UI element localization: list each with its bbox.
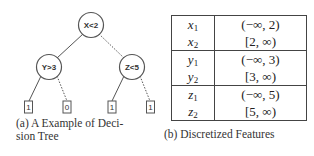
caption-b: (b) Discretized Features — [164, 128, 314, 141]
edge-root-right — [99, 34, 124, 58]
discretized-features-table: x1 (−∞, 2) x2 [2, ∞) y1 (−∞, 3) y2 [3, ∞… — [171, 15, 307, 121]
table-row: x1 (−∞, 2) — [172, 16, 307, 34]
leaf-label: 1 — [110, 103, 115, 112]
interval-cell: [2, ∞) — [215, 33, 307, 51]
interval-cell: [3, ∞) — [215, 68, 307, 86]
tree-node-root: X<2 — [79, 13, 104, 38]
caption-a-line2: sion Tree — [16, 130, 156, 143]
variable-cell: z1 — [172, 86, 215, 104]
table-row: z1 (−∞, 5) — [172, 86, 307, 104]
variable-cell: x1 — [172, 16, 215, 34]
edge-root-left — [57, 34, 83, 58]
interval-cell: [5, ∞) — [215, 103, 307, 121]
variable-cell: x2 — [172, 33, 215, 51]
interval-cell: (−∞, 5) — [215, 86, 307, 104]
leaf-label: 1 — [26, 103, 31, 112]
discretized-features-panel: x1 (−∞, 2) x2 [2, ∞) y1 (−∞, 3) y2 [3, ∞… — [160, 0, 314, 156]
tree-leaf-3: 1 — [108, 101, 116, 113]
decision-tree-panel: X<2 Y>3 Z<5 1 0 1 1 (a) A Example of Dec — [0, 0, 160, 156]
table-row: x2 [2, ∞) — [172, 33, 307, 51]
edge-left-leaf1 — [29, 76, 41, 101]
table-row: y1 (−∞, 3) — [172, 51, 307, 69]
caption-a-line1: (a) A Example of Deci- — [16, 117, 156, 130]
interval-cell: (−∞, 3) — [215, 51, 307, 69]
variable-cell: y1 — [172, 51, 215, 69]
variable-cell: y2 — [172, 68, 215, 86]
tree-leaf-1: 1 — [25, 101, 33, 113]
interval-cell: (−∞, 2) — [215, 16, 307, 34]
leaf-label: 0 — [65, 103, 70, 112]
node-label-root: X<2 — [84, 21, 99, 30]
tree-leaf-2: 0 — [63, 101, 71, 113]
node-label-left: Y>3 — [42, 63, 57, 72]
tree-leaf-4: 1 — [147, 101, 155, 113]
table-row: z2 [5, ∞) — [172, 103, 307, 121]
caption-a: (a) A Example of Deci- sion Tree — [16, 117, 156, 143]
tree-node-left: Y>3 — [37, 55, 62, 80]
tree-node-right: Z<5 — [120, 55, 145, 80]
node-label-right: Z<5 — [125, 63, 140, 72]
edge-right-leaf2 — [140, 76, 150, 101]
edge-left-leaf2 — [57, 76, 67, 101]
decision-tree-diagram: X<2 Y>3 Z<5 1 0 1 1 — [0, 0, 160, 116]
variable-cell: z2 — [172, 103, 215, 121]
table-row: y2 [3, ∞) — [172, 68, 307, 86]
leaf-label: 1 — [148, 103, 153, 112]
edge-right-leaf1 — [112, 76, 124, 101]
